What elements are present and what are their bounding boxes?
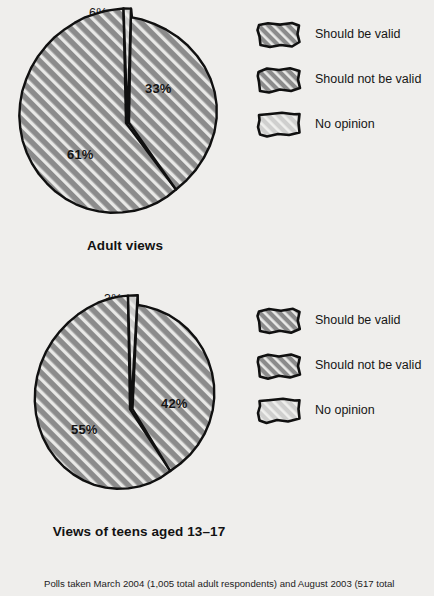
footnote-text: Polls taken March 2004 (1,005 total adul… (44, 578, 434, 591)
legend-item-should-be-valid-adult[interactable]: Should be valid (256, 12, 431, 57)
pie-adult-svg (10, 2, 240, 234)
legend-label: No opinion (315, 404, 375, 418)
caption-adult-views: Adult views (0, 238, 250, 253)
hatch-dark-swatch-icon (256, 20, 302, 50)
legend-label: No opinion (315, 118, 375, 132)
legend-item-no-opinion-adult[interactable]: No opinion (256, 102, 431, 147)
legend-teen: Should be valid Should not be valid No o… (256, 298, 431, 433)
hatch-dark-swatch-icon (256, 351, 302, 381)
slice-label-should-not-be-valid-adult: 61% (67, 147, 94, 162)
legend-label: Should not be valid (315, 359, 421, 373)
slice-label-should-be-valid-teen: 42% (161, 396, 188, 411)
pie-adult: 33% 61% (10, 2, 240, 234)
pie-teen: 42% 55% (24, 288, 254, 520)
legend-adult: Should be valid Should not be valid No o… (256, 12, 431, 147)
pie-chart-figure: 6% 33% 61% Adult views (0, 0, 434, 596)
hatch-light-swatch-icon (256, 396, 302, 426)
hatch-light-swatch-icon (256, 110, 302, 140)
legend-item-should-not-be-valid-teen[interactable]: Should not be valid (256, 343, 431, 388)
slice-label-should-be-valid-adult: 33% (145, 81, 172, 96)
hatch-dark-swatch-icon (256, 306, 302, 336)
legend-label: Should not be valid (315, 73, 421, 87)
pie-teen-svg (24, 288, 254, 520)
panel-adult-views: 6% 33% 61% Adult views (0, 2, 250, 253)
legend-label: Should be valid (315, 314, 400, 328)
legend-item-should-not-be-valid-adult[interactable]: Should not be valid (256, 57, 431, 102)
legend-item-should-be-valid-teen[interactable]: Should be valid (256, 298, 431, 343)
legend-item-no-opinion-teen[interactable]: No opinion (256, 388, 431, 433)
legend-label: Should be valid (315, 28, 400, 42)
caption-teen-views: Views of teens aged 13–17 (14, 524, 264, 539)
panel-teen-views: 3% 42% 55% Views of teens aged 13–17 (14, 288, 264, 539)
slice-label-should-not-be-valid-teen: 55% (71, 422, 98, 437)
hatch-dark-swatch-icon (256, 65, 302, 95)
